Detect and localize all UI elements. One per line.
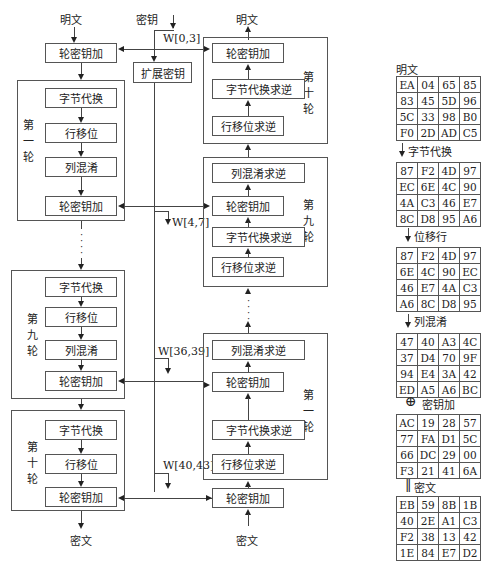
dec-r10-inv-shiftrows: 行移位求逆 [212,116,284,136]
ex-shiftrows-label: 位移行 [414,228,447,244]
matrix-cell: 4D [439,163,460,179]
matrix-cell: C5 [460,125,481,141]
enc-r10-shiftrows: 行移位 [45,454,117,474]
enc-round10-label: 第十轮 [26,440,38,488]
connector [248,514,249,526]
enc-r9-mixcolumns: 列混淆 [45,340,117,360]
connector [81,63,82,74]
connector [123,49,204,50]
matrix-cell: 33 [418,109,439,125]
enc-round1-label: 第一轮 [22,118,34,166]
matrix-cell: AC [397,415,418,431]
matrix-cell: 6E [397,264,418,280]
matrix-cell: 3A [439,366,460,382]
matrix-cell: EC [397,179,418,195]
matrix-row: 46E74AC3 [397,280,481,296]
ex-subbytes-label: 字节代换 [408,143,452,159]
arrow-down-icon [165,368,171,374]
matrix-cell: 29 [439,447,460,463]
matrix-cell: 97 [460,248,481,264]
matrix-cell: DC [418,447,439,463]
matrix-row: 4AC346E7 [397,195,481,211]
matrix-row: 83455D96 [397,93,481,109]
connector [248,189,249,196]
matrix-cell: 4A [397,195,418,211]
matrix-cell: A6 [397,296,418,312]
matrix-cell: 87 [397,163,418,179]
ellipsis-dots: ···· [247,298,249,322]
matrix-cell: E4 [418,366,439,382]
matrix-row: 94E43A42 [397,366,481,382]
matrix-cell: 77 [397,431,418,447]
matrix-cell: 84 [418,545,439,561]
dec-r1-add-round-key: 轮密钥加 [212,372,284,392]
matrix-cell: 57 [460,415,481,431]
matrix-row: EA046585 [397,77,481,93]
matrix-cell: C3 [460,513,481,529]
matrix-cell: 4C [418,264,439,280]
matrix-cell: 98 [439,109,460,125]
arrow-down-icon [405,322,411,328]
matrix-cell: 40 [418,334,439,350]
dec-input-label: 密文 [236,532,258,548]
arrow-down-icon [170,23,176,29]
matrix-cell: 8C [397,211,418,227]
connector [248,69,249,79]
connector [74,27,75,37]
matrix-cell: F2 [418,248,439,264]
ex-plaintext-label: 明文 [396,61,418,77]
matrix-cell: 70 [439,350,460,366]
matrix-cell: A3 [439,334,460,350]
matrix-cell: C3 [418,195,439,211]
matrix-cell: 45 [418,93,439,109]
matrix-row: 8CD895A6 [397,211,481,227]
ex-ciphertext-matrix: EB598B1B402EA1C3F23813421E84E7D2 [396,496,481,561]
matrix-row: 77FAD15C [397,431,481,447]
matrix-cell: 41 [439,463,460,479]
ex-plaintext-matrix: EA04658583455D965C3398B0F02DADC5 [396,76,481,141]
key-word-36-39: W[36,39] [158,345,209,358]
matrix-cell: E7 [439,545,460,561]
enc-round9-label: 第九轮 [26,312,38,360]
dec-r10-inv-subbytes: 字节代换求逆 [212,79,305,99]
connector [248,446,249,454]
matrix-cell: D2 [460,545,481,561]
matrix-cell: 95 [439,211,460,227]
equals-icon: ‖ [405,477,412,492]
matrix-cell: EA [397,77,418,93]
matrix-cell: D1 [439,431,460,447]
connector [154,211,168,212]
arrow-left-icon [118,378,124,384]
enc-r1-add-round-key: 轮密钥加 [45,196,117,216]
matrix-cell: F2 [418,163,439,179]
arrow-down-icon [405,236,411,242]
dec-r1-inv-mixcolumns: 列混淆求逆 [212,340,305,360]
matrix-row: EB598B1B [397,497,481,513]
matrix-cell: 1E [397,545,418,561]
ex-mixcolumns-label: 列混淆 [414,313,447,329]
matrix-cell: A6 [460,211,481,227]
connector [81,221,82,229]
matrix-cell: F0 [397,125,418,141]
matrix-cell: 28 [439,415,460,431]
matrix-row: A68CD895 [397,296,481,312]
matrix-cell: 90 [439,264,460,280]
key-bus [154,83,155,492]
dec-r9-add-round-key: 轮密钥加 [212,196,284,216]
arrow-left-icon [118,203,124,209]
matrix-row: 1E84E7D2 [397,545,481,561]
matrix-cell: 6A [460,463,481,479]
ex-ciphertext-label: 密文 [414,479,436,495]
enc-r1-subbytes: 字节代换 [45,88,117,108]
matrix-row: 37D4709F [397,350,481,366]
enc-output-label: 密文 [70,532,92,548]
matrix-cell: 21 [418,463,439,479]
matrix-cell: 4C [460,334,481,350]
xor-icon: ⊕ [405,393,417,409]
matrix-cell: 5D [439,93,460,109]
connector [154,473,168,474]
matrix-cell: C3 [460,280,481,296]
matrix-cell: 90 [460,179,481,195]
dec-r10-add-round-key: 轮密钥加 [212,43,284,63]
connector [123,381,204,382]
